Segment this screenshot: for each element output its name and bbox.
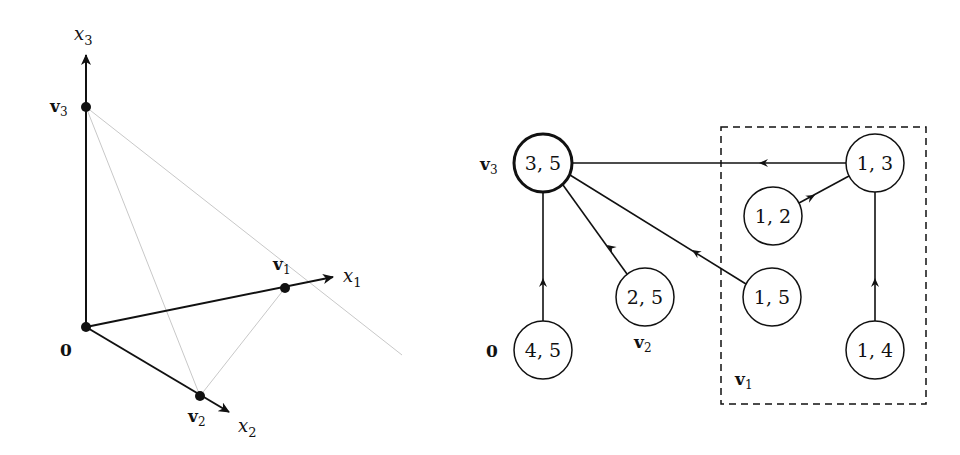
node-4-5: 4, 5: [514, 321, 572, 379]
edge-12-to-13: [799, 176, 849, 203]
axis-label-x3: x3: [74, 23, 92, 48]
node-1-4: 1, 4: [846, 321, 904, 379]
point-v2: [195, 391, 205, 401]
right-graph-figure: 3, 5 4, 5 2, 5 1, 5 1, 2 1, 3: [479, 127, 926, 404]
graph-label-v1: v1: [734, 369, 753, 392]
arrowhead-icon: [805, 191, 817, 202]
edge-25-to-35: [563, 185, 627, 274]
point-v1: [280, 283, 290, 293]
svg-text:1, 2: 1, 2: [755, 205, 791, 227]
simplex-faint-lines: [86, 107, 402, 396]
svg-text:2, 5: 2, 5: [627, 286, 663, 308]
label-v2: v2: [187, 406, 206, 429]
edge-v1-v2: [200, 288, 285, 396]
point-v3: [81, 102, 91, 112]
graph-edges: [543, 163, 875, 321]
left-3d-axes-figure: x3 x1 x2 v3 v1 v2 0: [49, 23, 402, 440]
graph-label-v3: v3: [479, 154, 498, 177]
label-origin: 0: [60, 340, 72, 360]
graph-nodes: 3, 5 4, 5 2, 5 1, 5 1, 2 1, 3: [514, 134, 904, 379]
node-2-5: 2, 5: [616, 268, 674, 326]
node-3-5: 3, 5: [514, 134, 572, 192]
svg-text:3, 5: 3, 5: [525, 152, 561, 174]
edge-15-to-35: [570, 175, 746, 284]
label-v3: v3: [49, 96, 68, 119]
svg-text:1, 5: 1, 5: [754, 286, 790, 308]
svg-text:1, 4: 1, 4: [857, 339, 893, 361]
axis-label-x2: x2: [238, 415, 256, 440]
node-1-5: 1, 5: [743, 268, 801, 326]
node-1-2: 1, 2: [744, 187, 802, 245]
figure-canvas: x3 x1 x2 v3 v1 v2 0: [0, 0, 960, 455]
node-1-3: 1, 3: [846, 134, 904, 192]
axis-label-x1: x1: [343, 265, 361, 290]
label-v1: v1: [272, 254, 291, 277]
point-origin: [81, 322, 91, 332]
axis-x2: [86, 327, 229, 412]
edge-v3-v2: [86, 107, 200, 396]
svg-text:1, 3: 1, 3: [857, 152, 893, 174]
svg-text:4, 5: 4, 5: [525, 339, 561, 361]
graph-label-origin: 0: [486, 341, 498, 361]
graph-label-v2: v2: [633, 332, 652, 355]
axis-x1: [86, 277, 333, 327]
